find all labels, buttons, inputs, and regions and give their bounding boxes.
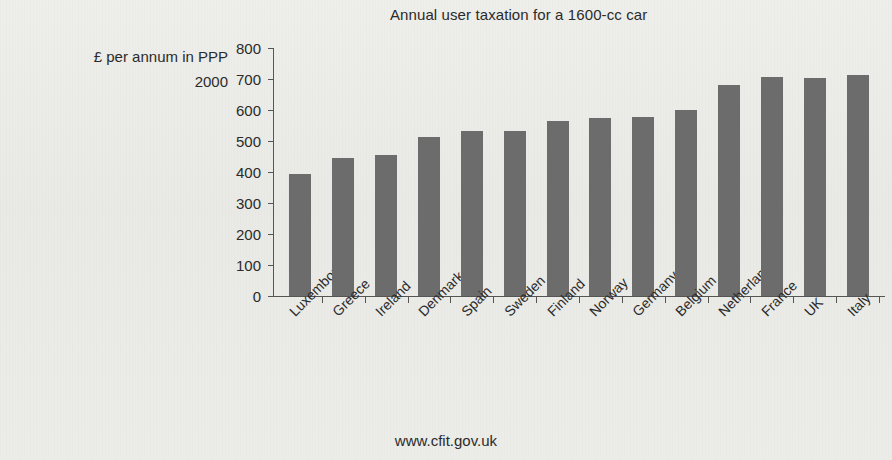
x-tick-mark — [579, 297, 580, 303]
x-tick-mark — [708, 297, 709, 303]
bar — [332, 158, 354, 296]
y-tick-mark — [268, 110, 274, 111]
x-tick-mark — [536, 297, 537, 303]
y-tick-mark — [268, 265, 274, 266]
bar — [804, 78, 826, 296]
y-tick-mark — [268, 79, 274, 80]
x-tick-mark — [622, 297, 623, 303]
y-tick-label: 600 — [217, 103, 261, 118]
y-tick-mark — [268, 203, 274, 204]
bar — [632, 117, 654, 296]
x-tick-mark — [793, 297, 794, 303]
bar — [589, 118, 611, 296]
bar — [718, 85, 740, 296]
x-axis-label: UK — [801, 294, 826, 319]
y-tick-label: 400 — [217, 165, 261, 180]
y-tick-label: 500 — [217, 134, 261, 149]
y-tick-mark — [268, 48, 274, 49]
bar — [418, 137, 440, 296]
x-tick-mark — [879, 297, 880, 303]
y-tick-label: 200 — [217, 227, 261, 242]
bar — [761, 77, 783, 296]
y-tick-mark — [268, 141, 274, 142]
y-tick-mark — [268, 234, 274, 235]
x-tick-mark — [365, 297, 366, 303]
y-tick-label: 100 — [217, 258, 261, 273]
bar — [675, 110, 697, 296]
y-tick-label: 0 — [217, 289, 261, 304]
y-tick-label: 300 — [217, 196, 261, 211]
y-tick-label: 800 — [217, 41, 261, 56]
bar — [461, 131, 483, 296]
bar — [504, 131, 526, 296]
plot-area: 0100200300400500600700800LuxembourgGreec… — [0, 0, 892, 460]
x-tick-mark — [665, 297, 666, 303]
x-tick-mark — [493, 297, 494, 303]
y-tick-mark — [268, 296, 274, 297]
x-tick-mark — [408, 297, 409, 303]
bar — [289, 174, 311, 296]
source-url: www.cfit.gov.uk — [0, 432, 892, 449]
bar — [547, 121, 569, 296]
y-tick-mark — [268, 172, 274, 173]
y-tick-label: 700 — [217, 72, 261, 87]
x-tick-mark — [450, 297, 451, 303]
x-tick-mark — [836, 297, 837, 303]
bar — [375, 155, 397, 296]
x-tick-mark — [750, 297, 751, 303]
x-tick-mark — [322, 297, 323, 303]
bar — [847, 75, 869, 296]
